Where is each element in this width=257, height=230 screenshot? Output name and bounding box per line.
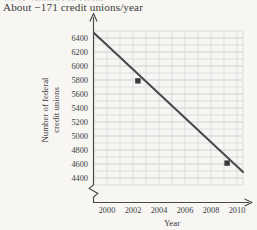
- x-tick-label: 2004: [151, 206, 168, 215]
- y-tick-label: 5600: [71, 90, 88, 99]
- y-axis-break-symbol: [89, 185, 98, 203]
- y-tick-label: 5000: [71, 132, 88, 141]
- trend-line: [94, 33, 243, 172]
- y-tick-label: 4800: [71, 146, 88, 155]
- y-axis-title-line1: Number of federal: [40, 77, 50, 143]
- x-tick-label: 2006: [177, 206, 194, 215]
- y-tick-label: 5800: [71, 76, 88, 85]
- x-tick-labels: 2000 2002 2004 2006 2008 2010: [99, 206, 246, 215]
- y-tick-label: 6200: [71, 48, 88, 57]
- y-axis-title-line2: credit unions: [51, 87, 61, 133]
- y-tick-label: 5200: [71, 118, 88, 127]
- y-tick-label: 5400: [71, 104, 88, 113]
- y-axis-title: Number of federal credit unions: [40, 77, 61, 143]
- y-tick-label: 6000: [71, 62, 88, 71]
- y-tick-label: 4600: [71, 160, 88, 169]
- x-tick-label: 2002: [125, 206, 142, 215]
- line-chart: 6400 6200 6000 5800 5600 5400 5200 5000 …: [0, 0, 257, 230]
- y-tick-label: 4400: [71, 174, 88, 183]
- x-tick-label: 2010: [229, 206, 246, 215]
- figure-root: 19. A. Number of credit About −171 credi…: [0, 0, 257, 230]
- data-point-2: [224, 160, 229, 165]
- data-point-1: [135, 78, 140, 83]
- x-axis-title: Year: [164, 218, 180, 228]
- y-tick-labels: 6400 6200 6000 5800 5600 5400 5200 5000 …: [71, 34, 88, 183]
- x-tick-label: 2000: [99, 206, 116, 215]
- x-tick-label: 2008: [203, 206, 220, 215]
- y-tick-label: 6400: [71, 34, 88, 43]
